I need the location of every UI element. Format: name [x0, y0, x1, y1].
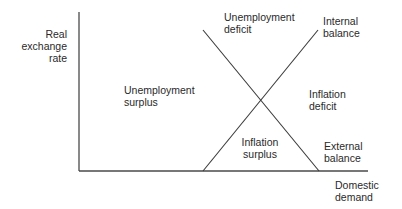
- region-label-right: Inflation deficit: [309, 88, 346, 112]
- y-axis-label: Real exchange rate: [14, 28, 67, 64]
- region-label-top: Unemployment deficit: [224, 11, 295, 35]
- region-label-bottom: Inflation surplus: [230, 136, 290, 160]
- internal-balance-label: Internal balance: [323, 15, 360, 39]
- region-label-left: Unemployment surplus: [124, 84, 195, 108]
- external-balance-label: External balance: [324, 140, 363, 164]
- x-axis-label: Domestic demand: [335, 179, 379, 203]
